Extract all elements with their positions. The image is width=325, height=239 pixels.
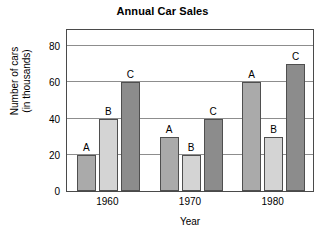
bar-label-1970-A: A (156, 124, 183, 135)
x-tick-label-1970: 1970 (149, 196, 232, 207)
bar-label-1980-A: A (238, 69, 265, 80)
bar-1970-A (160, 137, 179, 191)
plot-inner: ABCABCABC (67, 30, 313, 191)
bar-1960-A (77, 155, 96, 191)
gridline-60 (67, 81, 313, 82)
bar-label-1970-B: B (178, 142, 205, 153)
bar-1980-B (264, 137, 283, 191)
plot-area: ABCABCABC (66, 29, 314, 192)
x-tick-label-1960: 1960 (66, 196, 149, 207)
bar-label-1960-C: C (117, 69, 144, 80)
y-axis-title: Number of cars (in thousands) (0, 21, 42, 141)
bar-label-1960-B: B (95, 106, 122, 117)
bar-label-1980-C: C (282, 51, 309, 62)
bar-label-1960-A: A (73, 142, 100, 153)
x-tick-label-1980: 1980 (231, 196, 314, 207)
y-tick-label-80: 80 (38, 41, 60, 52)
bar-1970-B (182, 155, 201, 191)
y-tick-label-0: 0 (38, 186, 60, 197)
y-axis-title-line-1: Number of cars (9, 47, 21, 115)
bar-1970-C (204, 119, 223, 191)
gridline-80 (67, 45, 313, 46)
y-tick-label-40: 40 (38, 114, 60, 125)
chart-title: Annual Car Sales (0, 5, 325, 17)
chart-figure: Annual Car Sales Number of cars (in thou… (0, 0, 325, 239)
bar-label-1970-C: C (200, 106, 227, 117)
bar-label-1980-B: B (260, 124, 287, 135)
bar-1980-A (242, 82, 261, 191)
bar-1960-C (121, 82, 140, 191)
bar-1980-C (286, 64, 305, 191)
x-axis-title: Year (66, 216, 314, 227)
y-tick-label-60: 60 (38, 77, 60, 88)
bar-1960-B (99, 119, 118, 191)
y-axis-title-line-2: (in thousands) (21, 49, 33, 112)
y-tick-label-20: 20 (38, 150, 60, 161)
